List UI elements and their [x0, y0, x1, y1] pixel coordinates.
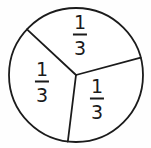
fraction-denominator: 3 — [35, 85, 49, 105]
fraction-label-top-sector: 1 3 — [73, 13, 87, 58]
fraction-label-left-sector: 1 3 — [35, 60, 49, 105]
fraction-numerator: 1 — [35, 60, 49, 80]
fraction-denominator: 3 — [90, 102, 104, 122]
fraction-bar-icon — [35, 81, 49, 83]
fraction-bar-icon — [90, 98, 104, 100]
fraction-numerator: 1 — [90, 77, 104, 97]
fraction-numerator: 1 — [73, 13, 87, 33]
fraction-denominator: 3 — [73, 38, 87, 58]
fraction-circle-figure: 1 3 1 3 1 3 — [0, 0, 151, 148]
fraction-bar-icon — [73, 34, 87, 36]
fraction-label-bottom-right-sector: 1 3 — [90, 77, 104, 122]
